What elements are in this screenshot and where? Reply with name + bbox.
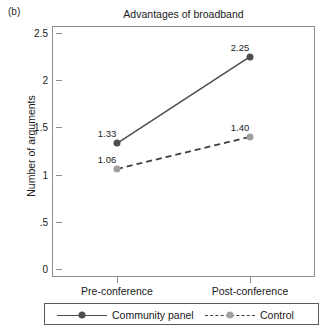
data-point-label: 2.25	[231, 41, 250, 52]
x-tick-label: Post-conference	[212, 285, 288, 297]
y-tick-label: .5	[18, 216, 48, 227]
legend: Community panel Control	[44, 303, 319, 325]
data-point-marker	[247, 133, 254, 140]
x-tick-mark	[250, 277, 251, 283]
y-tick-mark	[56, 222, 62, 223]
y-tick-mark	[56, 269, 62, 270]
legend-item-control: Control	[205, 304, 294, 326]
y-tick-mark	[56, 127, 62, 128]
y-tick-mark	[56, 33, 62, 34]
y-tick-label: 1.5	[18, 122, 48, 133]
data-point-marker	[114, 165, 121, 172]
legend-label-control: Control	[260, 309, 294, 321]
y-tick-label: 1	[18, 169, 48, 180]
y-tick-mark	[56, 80, 62, 81]
x-tick-mark	[117, 277, 118, 283]
legend-item-community-panel: Community panel	[57, 304, 194, 326]
y-tick-mark	[56, 175, 62, 176]
legend-swatch-solid	[57, 309, 107, 321]
legend-label-community-panel: Community panel	[112, 309, 194, 321]
figure-panel-b: (b) Advantages of broadband Number of ar…	[0, 0, 327, 330]
data-point-marker	[114, 140, 121, 147]
data-point-label: 1.06	[98, 153, 117, 164]
data-point-marker	[247, 53, 254, 60]
y-axis-ticks: 0.511.522.5	[10, 0, 48, 330]
y-tick-label: 2.5	[18, 28, 48, 39]
legend-swatch-dashed	[205, 309, 255, 321]
y-tick-label: 2	[18, 75, 48, 86]
chart-title: Advantages of broadband	[52, 8, 315, 20]
plot-area	[52, 26, 315, 277]
data-point-label: 1.40	[231, 121, 250, 132]
data-point-label: 1.33	[98, 128, 117, 139]
y-tick-label: 0	[18, 264, 48, 275]
x-tick-label: Pre-conference	[81, 285, 153, 297]
